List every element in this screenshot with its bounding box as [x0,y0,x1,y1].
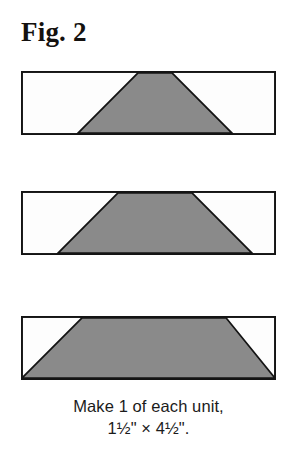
unit-3-svg [21,316,276,380]
figure-caption: Make 1 of each unit, 1½" × 4½". [0,396,297,440]
unit-diagrams [0,0,297,461]
caption-line-1: Make 1 of each unit, [0,396,297,418]
unit-1-svg [21,71,276,135]
unit-diagram-3 [21,316,276,380]
unit-diagram-2 [21,191,276,255]
caption-line-2: 1½" × 4½". [0,418,297,440]
unit-2-svg [21,191,276,255]
figure-page: Fig. 2 Make 1 of each unit, [0,0,297,461]
unit-diagram-1 [21,71,276,135]
